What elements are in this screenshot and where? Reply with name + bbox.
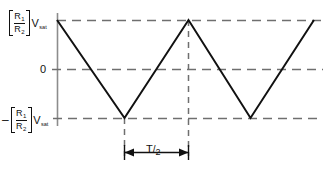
numerator-subscript: 1 <box>23 113 26 119</box>
figure-canvas: R1 R2 Vsat 0 – R1 R2 <box>0 0 325 170</box>
denominator-subscript: 2 <box>21 29 24 35</box>
upper-limit-vsat: Vsat <box>32 18 47 29</box>
numerator-subscript: 1 <box>21 16 24 22</box>
bracket-right-icon <box>26 10 30 36</box>
upper-limit-expression: R1 R2 Vsat <box>9 10 47 36</box>
dimension-arrowhead-right <box>179 149 189 157</box>
bracket-right-icon <box>28 107 32 133</box>
lower-limit-expression: – R1 R2 Vsat <box>2 107 48 133</box>
upper-limit-label: R1 R2 Vsat <box>9 10 47 39</box>
minus-sign-icon: – <box>2 114 9 126</box>
fraction-numerator: R1 <box>16 108 26 119</box>
fraction-numerator: R1 <box>14 11 24 22</box>
fraction-denominator: R2 <box>14 24 24 35</box>
vsat-subscript: sat <box>39 25 46 31</box>
lower-limit-vsat: Vsat <box>33 115 48 126</box>
lower-limit-bracket-group: R1 R2 <box>11 107 32 133</box>
zero-level-label: 0 <box>40 64 46 75</box>
triangle-wave-trace <box>57 20 314 118</box>
vsat-subscript: sat <box>41 122 48 128</box>
denominator-symbol: R <box>16 121 23 132</box>
period-divisor: 2 <box>156 148 161 157</box>
numerator-symbol: R <box>14 11 21 22</box>
dimension-arrowhead-left <box>125 149 135 157</box>
resistor-ratio-fraction: R1 R2 <box>13 10 26 36</box>
waveform-plot-svg <box>0 0 325 170</box>
period-label: T/2 <box>146 144 161 155</box>
waveform-figure-screenshot: R1 R2 Vsat 0 – R1 R2 <box>0 0 325 170</box>
numerator-symbol: R <box>16 108 23 119</box>
vsat-symbol: V <box>33 115 40 126</box>
resistor-ratio-fraction: R1 R2 <box>15 107 28 133</box>
upper-limit-bracket-group: R1 R2 <box>9 10 30 36</box>
period-symbol: T <box>146 144 153 155</box>
lower-limit-label: – R1 R2 Vsat <box>2 107 48 133</box>
denominator-symbol: R <box>14 24 21 35</box>
vsat-symbol: V <box>32 18 39 29</box>
fraction-denominator: R2 <box>16 121 26 132</box>
denominator-subscript: 2 <box>23 126 26 132</box>
